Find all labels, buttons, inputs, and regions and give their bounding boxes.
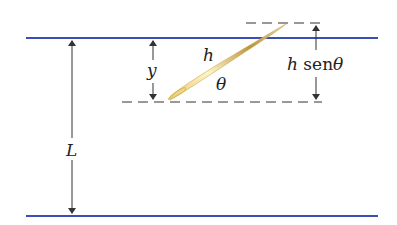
label-h-sen-theta-fn: sen xyxy=(303,54,333,74)
label-h-sen-theta-h: h xyxy=(287,54,298,74)
label-y: y xyxy=(147,62,157,79)
diagram-canvas xyxy=(0,0,397,225)
label-h: h xyxy=(203,47,214,64)
label-L: L xyxy=(66,142,77,159)
label-theta: θ xyxy=(216,76,226,93)
label-h-sen-theta: h senθ xyxy=(287,56,343,73)
label-h-sen-theta-theta: θ xyxy=(333,54,343,74)
